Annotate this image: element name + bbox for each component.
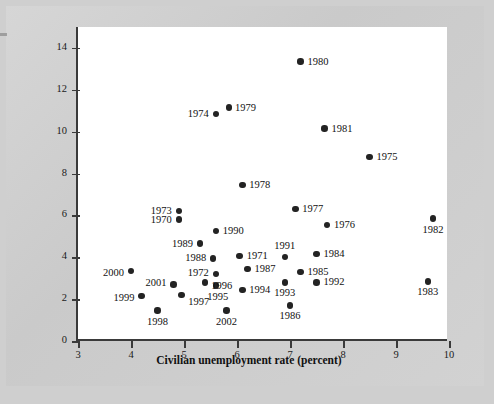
data-point-label: 1979 bbox=[235, 103, 256, 113]
data-point[interactable] bbox=[425, 278, 431, 284]
data-point-label: 1973 bbox=[151, 206, 172, 216]
data-point[interactable] bbox=[324, 222, 330, 228]
data-point[interactable] bbox=[366, 154, 372, 160]
data-point[interactable] bbox=[138, 293, 144, 299]
y-axis-title-line-1: Inflation bbox=[16, 0, 30, 37]
data-point-label: 1995 bbox=[207, 292, 228, 302]
data-point-label: 1998 bbox=[147, 317, 168, 327]
y-tick-label-4: 4 bbox=[62, 250, 67, 261]
x-tick-8 bbox=[343, 341, 345, 348]
x-tick-label-10: 10 bbox=[444, 349, 455, 360]
x-axis-title: Civilian unemployment rate (percent) bbox=[84, 354, 414, 366]
data-point-label: 1975 bbox=[377, 152, 398, 162]
y-tick-label-2: 2 bbox=[62, 292, 67, 303]
data-point-label: 1988 bbox=[185, 253, 206, 263]
data-point-label: 2000 bbox=[103, 268, 124, 278]
data-point-label: 1977 bbox=[302, 204, 323, 214]
x-tick-label-3: 3 bbox=[75, 349, 80, 360]
data-point-label: 1999 bbox=[114, 293, 135, 303]
data-point-label: 1997 bbox=[188, 297, 209, 307]
data-point[interactable] bbox=[321, 125, 327, 131]
y-tick-label-6: 6 bbox=[62, 208, 67, 219]
data-point[interactable] bbox=[213, 228, 219, 234]
y-tick-label-12: 12 bbox=[57, 83, 68, 94]
x-tick-7 bbox=[290, 341, 292, 348]
data-point-label: 2001 bbox=[145, 278, 166, 288]
data-point[interactable] bbox=[213, 111, 219, 117]
data-point-label: 2002 bbox=[216, 317, 237, 327]
data-point-label: 1987 bbox=[255, 264, 276, 274]
scatter-plot-area: 1970197119721973197419751976197719781979… bbox=[78, 27, 447, 339]
data-point-label: 1990 bbox=[223, 226, 244, 236]
data-point[interactable] bbox=[170, 281, 176, 287]
y-axis-title-line-2: (percent per year) bbox=[30, 0, 44, 37]
data-point-label: 1972 bbox=[188, 268, 209, 278]
data-point-label: 1989 bbox=[172, 239, 193, 249]
x-tick-3 bbox=[78, 341, 80, 348]
data-point[interactable] bbox=[197, 240, 203, 246]
figure-container: Inflation (percent per year) 02468101214… bbox=[0, 0, 494, 404]
data-point[interactable] bbox=[239, 182, 245, 188]
data-point[interactable] bbox=[213, 271, 219, 277]
data-point-label: 1974 bbox=[188, 109, 209, 119]
data-point[interactable] bbox=[313, 251, 319, 257]
page-edge-artifact bbox=[0, 33, 7, 36]
data-point-label: 1983 bbox=[417, 287, 438, 297]
data-point-label: 1976 bbox=[334, 220, 355, 230]
data-point[interactable] bbox=[236, 253, 242, 259]
y-tick-label-0: 0 bbox=[62, 334, 67, 345]
data-point[interactable] bbox=[178, 292, 184, 298]
data-point[interactable] bbox=[226, 104, 232, 110]
x-axis-ticks: 345678910 bbox=[78, 341, 449, 342]
y-tick-label-10: 10 bbox=[57, 125, 68, 136]
data-point-label: 1978 bbox=[249, 180, 270, 190]
x-tick-10 bbox=[449, 341, 451, 348]
data-point[interactable] bbox=[430, 215, 436, 221]
data-point-label: 1986 bbox=[280, 311, 301, 321]
data-point-label: 1991 bbox=[274, 241, 295, 251]
data-point[interactable] bbox=[128, 268, 134, 274]
x-tick-6 bbox=[237, 341, 239, 348]
data-point[interactable] bbox=[292, 206, 298, 212]
data-point-label: 1994 bbox=[249, 285, 270, 295]
data-point[interactable] bbox=[297, 58, 303, 64]
data-point-label: 1996 bbox=[211, 281, 232, 291]
data-point-label: 1981 bbox=[331, 124, 352, 134]
data-point[interactable] bbox=[202, 279, 208, 285]
data-point[interactable] bbox=[210, 255, 216, 261]
data-point[interactable] bbox=[244, 266, 250, 272]
data-point-label: 1993 bbox=[274, 288, 295, 298]
plot-frame: Inflation (percent per year) 02468101214… bbox=[76, 27, 447, 341]
data-point[interactable] bbox=[313, 279, 319, 285]
data-point-label: 1992 bbox=[324, 277, 345, 287]
data-point[interactable] bbox=[287, 302, 293, 308]
x-tick-9 bbox=[396, 341, 398, 348]
x-tick-4 bbox=[131, 341, 133, 348]
data-point-label: 1980 bbox=[308, 57, 329, 67]
y-tick-label-8: 8 bbox=[62, 167, 67, 178]
data-point-label: 1984 bbox=[324, 249, 345, 259]
data-point[interactable] bbox=[297, 269, 303, 275]
data-point[interactable] bbox=[282, 254, 288, 260]
data-point[interactable] bbox=[176, 208, 182, 214]
y-axis-title: Inflation (percent per year) bbox=[16, 0, 44, 37]
y-tick-label-14: 14 bbox=[57, 41, 68, 52]
x-tick-5 bbox=[184, 341, 186, 348]
data-point-label: 1982 bbox=[423, 225, 444, 235]
data-point[interactable] bbox=[239, 287, 245, 293]
data-point[interactable] bbox=[223, 307, 229, 313]
data-point-label: 1971 bbox=[247, 251, 268, 261]
data-point[interactable] bbox=[154, 307, 160, 313]
data-point[interactable] bbox=[282, 279, 288, 285]
data-point[interactable] bbox=[176, 216, 182, 222]
